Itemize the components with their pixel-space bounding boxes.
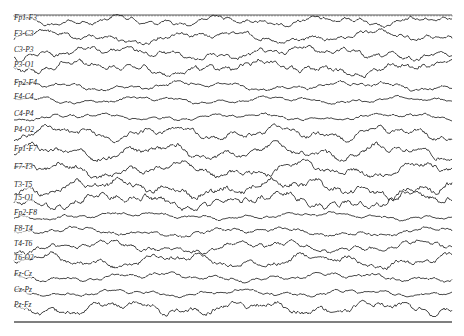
eeg-trace-f8-t4	[14, 226, 452, 238]
eeg-trace-fp1-f7	[14, 140, 452, 161]
channel-label: Fp1-F7	[14, 145, 37, 153]
eeg-trace-f4-c4	[14, 95, 452, 104]
channel-label: F3-C3	[14, 30, 34, 38]
channel-label: T6-O2	[14, 254, 34, 262]
eeg-trace-c3-p3	[14, 45, 452, 62]
eeg-trace-c4-p4	[14, 113, 452, 121]
channel-label: F4-C4	[14, 93, 34, 101]
channel-label: Fz-Cz	[14, 270, 32, 278]
eeg-trace-fp2-f4	[14, 81, 452, 92]
channel-label: T5-O1	[14, 194, 34, 202]
eeg-traces	[14, 14, 452, 317]
eeg-trace-p3-o1	[14, 59, 452, 78]
channel-label: P4-O2	[14, 126, 34, 134]
eeg-trace-cz-pz	[14, 289, 452, 298]
channel-label: Pz-Fz	[14, 301, 32, 309]
channel-label: T4-T6	[14, 240, 32, 248]
channel-label: F8-T4	[14, 225, 33, 233]
eeg-trace-t4-t6	[14, 240, 452, 256]
channel-label: Cz-Pz	[14, 286, 32, 294]
channel-label: F7-T3	[14, 163, 33, 171]
eeg-trace-f7-t3	[14, 159, 452, 178]
channel-label: Fp2-F8	[14, 209, 37, 217]
channel-label: T3-T5	[14, 181, 32, 189]
channel-label: P3-O1	[14, 61, 34, 69]
channel-label: C3-P3	[14, 46, 34, 54]
eeg-chart	[0, 0, 464, 336]
eeg-trace-t5-o1	[14, 191, 452, 211]
channel-label: Fp2-F4	[14, 79, 37, 87]
eeg-trace-t3-t5	[14, 177, 452, 200]
eeg-trace-f3-c3	[14, 29, 452, 45]
eeg-trace-t6-o2	[14, 251, 452, 269]
channel-label: C4-P4	[14, 110, 34, 118]
eeg-trace-fz-cz	[14, 272, 452, 284]
eeg-trace-p4-o2	[14, 124, 452, 143]
eeg-trace-fp2-f8	[14, 212, 452, 222]
eeg-trace-pz-fz	[14, 300, 452, 317]
channel-label: Fp1-F3	[14, 14, 37, 22]
